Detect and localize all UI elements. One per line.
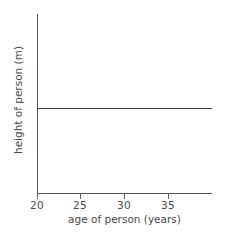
y-axis-title: height of person (m) xyxy=(12,10,24,190)
x-axis-tick-label: 30 xyxy=(109,199,139,211)
x-axis-tick-label: 35 xyxy=(153,199,183,211)
x-axis-title: age of person (years) xyxy=(37,213,212,225)
x-axis-tick-label: 25 xyxy=(65,199,95,211)
data-series-line xyxy=(37,108,212,109)
x-axis-tick-label: 20 xyxy=(22,199,52,211)
chart-container: 20 25 30 35 age of person (years) height… xyxy=(0,0,237,237)
y-axis-line xyxy=(37,14,38,194)
